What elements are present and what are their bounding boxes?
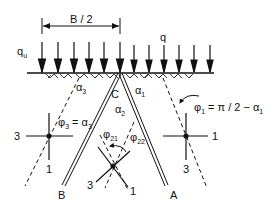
phi1-equation: φ1 = π / 2 − α1 [194, 101, 263, 115]
footing-load-arrows [39, 42, 124, 72]
right-axis-1-label: 1 [212, 130, 218, 142]
bottom-stress-cross [96, 147, 130, 187]
left-stress-cross [26, 113, 73, 160]
phi21-label: φ21 [103, 128, 118, 142]
alpha2-label: α2 [115, 103, 125, 117]
bearing-capacity-diagram: B / 2 qu q [0, 0, 279, 212]
left-axis-1-label: 1 [46, 163, 52, 175]
phi3-equation: φ3 = α3 [58, 116, 92, 130]
point-b-label: B [58, 189, 65, 201]
right-stress-cross [163, 113, 208, 160]
point-c-label: C [111, 88, 119, 100]
bottom-axis-3-label: 3 [87, 179, 93, 191]
alpha1-label: α1 [135, 84, 145, 98]
dimension-b-half: B / 2 [42, 13, 120, 34]
right-axis-3-label: 3 [183, 163, 189, 175]
dimension-label: B / 2 [70, 13, 93, 25]
surcharge-load-arrows [131, 45, 213, 72]
alpha3-label: α3 [76, 81, 86, 95]
rotation-arrow-icon [110, 146, 126, 152]
left-axis-3-label: 3 [14, 130, 20, 142]
slip-line-ca [119, 73, 168, 186]
footing-load-label: qu [17, 45, 27, 59]
bottom-axis-1-label: 1 [130, 185, 136, 197]
point-a-label: A [170, 189, 178, 201]
surcharge-load-label: q [160, 31, 166, 43]
